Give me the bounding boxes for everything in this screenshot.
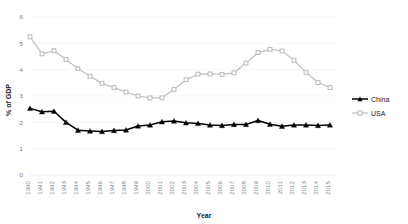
x-tick-1999: 1999	[132, 180, 139, 194]
x-axis-title: Year	[197, 212, 212, 219]
legend-marker-square-icon	[358, 111, 362, 115]
chart-container: 0123456 19901991199219931994199519961997…	[0, 0, 408, 224]
y-tick-5: 5	[20, 40, 24, 47]
data-point	[28, 35, 32, 39]
x-tick-2009: 2009	[252, 180, 259, 194]
data-point	[184, 78, 188, 82]
x-tick-2012: 2012	[288, 180, 295, 194]
data-point	[76, 67, 80, 71]
data-point	[196, 72, 200, 76]
y-tick-2: 2	[20, 119, 24, 126]
x-tick-1990: 1990	[24, 180, 31, 194]
data-point	[208, 72, 212, 76]
x-tick-2010: 2010	[264, 180, 271, 194]
data-point	[172, 88, 176, 92]
data-point	[124, 90, 128, 94]
y-tick-3: 3	[20, 92, 24, 99]
data-point	[220, 73, 224, 77]
line-chart: 0123456 19901991199219931994199519961997…	[0, 0, 408, 224]
data-point	[64, 57, 68, 61]
y-tick-6: 6	[20, 13, 24, 20]
x-tick-2000: 2000	[144, 180, 151, 194]
x-tick-2003: 2003	[180, 180, 187, 194]
legend-label-china: China	[371, 96, 389, 103]
legend-label-usa: USA	[371, 110, 386, 117]
data-point	[100, 81, 104, 85]
x-tick-2005: 2005	[204, 180, 211, 194]
x-tick-2001: 2001	[156, 180, 163, 194]
x-tick-2007: 2007	[228, 180, 235, 194]
data-point	[256, 51, 260, 55]
data-point	[268, 47, 272, 51]
y-tick-1: 1	[20, 145, 24, 152]
data-point	[136, 94, 140, 98]
x-tick-1995: 1995	[84, 180, 91, 194]
x-tick-2004: 2004	[192, 180, 199, 194]
data-point	[232, 71, 236, 75]
x-tick-2008: 2008	[240, 180, 247, 194]
data-point	[160, 96, 164, 100]
data-point	[40, 52, 44, 56]
x-tick-2011: 2011	[276, 180, 283, 194]
x-tick-2006: 2006	[216, 180, 223, 194]
data-point	[292, 58, 296, 62]
data-point	[52, 49, 56, 53]
x-tick-2013: 2013	[300, 180, 307, 194]
y-tick-4: 4	[20, 66, 24, 73]
x-tick-1997: 1997	[108, 180, 115, 194]
x-tick-1991: 1991	[36, 180, 43, 194]
x-tick-1998: 1998	[120, 180, 127, 194]
y-tick-0: 0	[20, 171, 24, 178]
x-tick-2014: 2014	[312, 180, 319, 194]
x-tick-2015: 2015	[324, 180, 331, 194]
x-tick-1996: 1996	[96, 180, 103, 194]
x-tick-1993: 1993	[60, 180, 67, 194]
x-tick-1992: 1992	[48, 180, 55, 194]
data-point	[304, 71, 308, 75]
x-tick-1994: 1994	[72, 180, 79, 194]
data-point	[88, 74, 92, 78]
data-point	[316, 81, 320, 85]
data-point	[112, 86, 116, 90]
x-tick-2002: 2002	[168, 180, 175, 194]
data-point	[244, 61, 248, 65]
y-axis-title: % of GDP	[5, 84, 12, 116]
data-point	[328, 86, 332, 90]
data-point	[148, 96, 152, 100]
data-point	[280, 49, 284, 53]
